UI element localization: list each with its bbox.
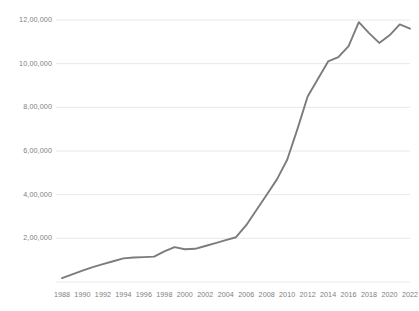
line-chart: 12,00,00010,00,0008,00,0006,00,0004,00,0… [0,0,419,311]
y-axis-tick-label: 6,00,000 [23,147,52,154]
y-axis-tick-label: 2,00,000 [23,234,52,241]
y-axis-tick-label: 4,00,000 [23,191,52,198]
y-axis-tick-label: 8,00,000 [23,103,52,110]
y-axis-tick-label: 12,00,000 [19,16,52,23]
chart-plot-area [0,0,419,311]
x-axis-tick-label: 2022 [397,291,419,298]
gridlines [56,20,410,282]
series-line [62,22,410,278]
y-axis-tick-label: 10,00,000 [19,60,52,67]
data-series-group [62,22,410,278]
